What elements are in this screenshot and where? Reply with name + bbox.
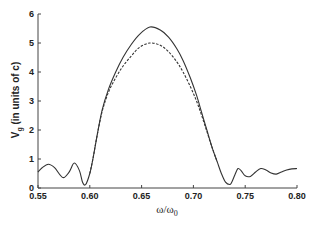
x-tick-label: 0.75 [236, 191, 254, 201]
y-tick-label: 4 [29, 67, 34, 77]
y-ticks: 0123456 [29, 9, 41, 193]
series-dashed-line [90, 43, 217, 174]
y-axis-label: Vg (in units of c) [10, 62, 24, 139]
x-tick-label: 0.65 [133, 191, 151, 201]
y-tick-label: 1 [29, 154, 34, 164]
x-tick-label: 0.55 [29, 191, 47, 201]
group-velocity-chart: 0123456 0.550.600.650.700.750.80 Vg (in … [0, 0, 318, 228]
x-tick-label: 0.70 [185, 191, 203, 201]
x-tick-label: 0.60 [81, 191, 99, 201]
plot-series [38, 27, 297, 185]
y-tick-label: 2 [29, 125, 34, 135]
axes [38, 14, 297, 188]
x-axis-label: ω/ω0 [156, 203, 178, 218]
x-ticks: 0.550.600.650.700.750.80 [29, 185, 306, 201]
y-tick-label: 3 [29, 96, 34, 106]
y-tick-label: 5 [29, 38, 34, 48]
x-tick-label: 0.80 [288, 191, 306, 201]
y-tick-label: 6 [29, 9, 34, 19]
